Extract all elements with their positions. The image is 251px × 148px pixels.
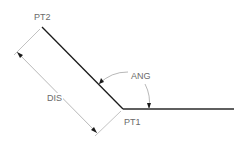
extension-line-pt2 <box>14 29 40 55</box>
distance-label: DIS <box>46 93 63 103</box>
extension-line-pt1 <box>95 111 121 136</box>
pt2-label: PT2 <box>33 12 52 22</box>
pt1-label: PT1 <box>123 117 142 127</box>
angle-arrowhead-right <box>147 103 151 109</box>
angle-label: ANG <box>130 71 152 81</box>
angle-arrowhead-left <box>99 78 104 84</box>
